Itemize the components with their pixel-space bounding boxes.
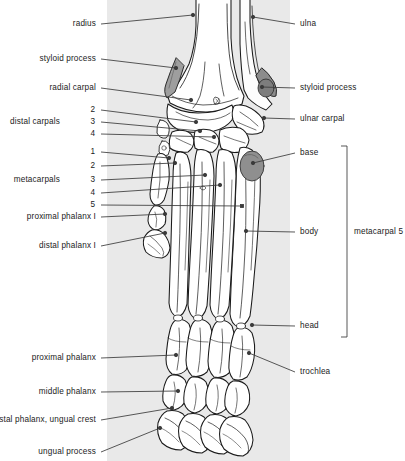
number-metacarpal-1: 1 bbox=[90, 148, 95, 156]
label-proximal-phalanx: proximal phalanx bbox=[32, 354, 96, 362]
label-metacarpal-5: metacarpal 5 bbox=[354, 228, 403, 236]
label-trochlea: trochlea bbox=[300, 368, 330, 376]
anatomical-figure: radius styloid process radial carpal dis… bbox=[0, 0, 405, 461]
label-middle-phalanx: middle phalanx bbox=[39, 388, 96, 396]
label-body: body bbox=[300, 228, 318, 236]
label-radius: radius bbox=[73, 20, 96, 28]
label-proximal-phalanx-1: proximal phalanx I bbox=[27, 213, 96, 221]
number-distal-carpal-2: 2 bbox=[90, 106, 95, 114]
label-styloid-process-ulnar: styloid process bbox=[300, 84, 356, 92]
label-base: base bbox=[300, 149, 318, 157]
number-metacarpal-2: 2 bbox=[90, 162, 95, 170]
label-distal-phalanx-1: distal phalanx I bbox=[39, 242, 96, 250]
label-ulnar-carpal: ulnar carpal bbox=[300, 115, 345, 123]
label-head: head bbox=[300, 322, 319, 330]
label-distal-carpals: distal carpals bbox=[10, 118, 60, 126]
label-radial-carpal: radial carpal bbox=[49, 84, 96, 92]
label-metacarpals: metacarpals bbox=[14, 176, 60, 184]
number-metacarpal-4: 4 bbox=[90, 189, 95, 197]
label-ulna: ulna bbox=[300, 20, 316, 28]
label-styloid-process-radial: styloid process bbox=[40, 55, 96, 63]
number-distal-carpal-4: 4 bbox=[90, 130, 95, 138]
label-ungual-process: ungual process bbox=[38, 448, 96, 456]
number-metacarpal-3: 3 bbox=[90, 176, 95, 184]
number-distal-carpal-3: 3 bbox=[90, 118, 95, 126]
number-metacarpal-5: 5 bbox=[90, 201, 95, 209]
metacarpal-5-bracket bbox=[341, 146, 347, 337]
label-distal-phalanx-ungual-crest: distal phalanx, ungual crest bbox=[0, 416, 96, 424]
